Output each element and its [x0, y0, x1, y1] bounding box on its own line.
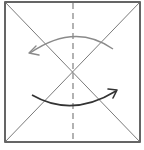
diagram-svg [0, 0, 144, 150]
origami-diagram [0, 0, 144, 150]
